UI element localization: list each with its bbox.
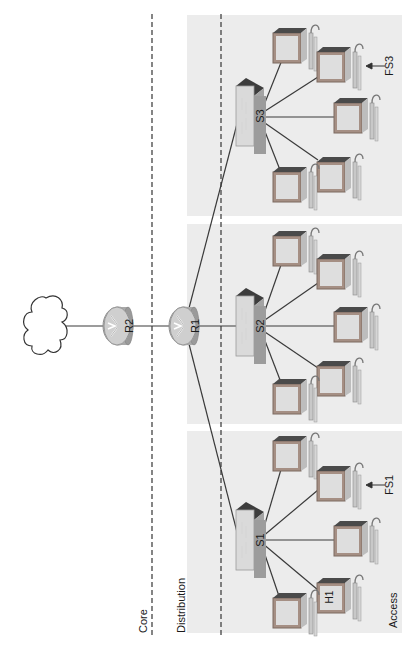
router-r1-label: R1 — [189, 319, 201, 333]
switch-s1-label: S1 — [254, 533, 266, 546]
switch-s3-label: S3 — [254, 109, 266, 122]
distribution-layer-label: Distribution — [175, 578, 187, 633]
fs3-label: FS3 — [383, 56, 395, 76]
core-layer-label: Core — [137, 609, 149, 633]
internet-cloud-icon — [24, 296, 68, 354]
router-r2-label: R2 — [123, 319, 135, 333]
network-diagram: R2 R1 S3 S2 S1 H1 FS1 FS3 Core Distribut… — [0, 0, 413, 649]
fs1-label: FS1 — [383, 475, 395, 495]
h1-label: H1 — [324, 590, 335, 603]
access-layer-label: Access — [387, 592, 399, 628]
switch-s2-label: S2 — [254, 319, 266, 332]
